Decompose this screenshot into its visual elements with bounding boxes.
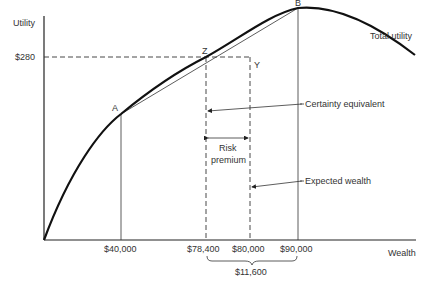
point-a-label: A <box>112 103 118 113</box>
x-axis-label: Wealth <box>388 248 416 258</box>
x-tick-80000: $80,000 <box>232 244 265 254</box>
chord-a-b <box>121 8 298 114</box>
risk-premium-label-2: premium <box>211 155 246 165</box>
certainty-equivalent-label: Certainty equivalent <box>305 99 385 109</box>
point-y-label: Y <box>254 60 260 70</box>
x-tick-40000: $40,000 <box>104 244 137 254</box>
curve-label: Total utility <box>370 31 413 41</box>
certainty-equivalent-arrow <box>208 104 302 111</box>
total-utility-curve <box>44 8 415 240</box>
expected-wealth-arrow <box>252 181 302 187</box>
risk-premium-label-1: Risk <box>219 143 237 153</box>
expected-wealth-label: Expected wealth <box>305 176 371 186</box>
x-tick-78400: $78,400 <box>187 244 220 254</box>
x-tick-90000: $90,000 <box>280 244 313 254</box>
point-b-label: B <box>295 0 301 8</box>
y-tick-280: $280 <box>15 52 35 62</box>
utility-diagram: Utility $280 Total utility A B Z Y Certa… <box>0 0 434 291</box>
brace-label: $11,600 <box>235 267 267 277</box>
brace-11600 <box>207 256 297 265</box>
y-axis-label: Utility <box>13 18 35 28</box>
point-z-label: Z <box>202 46 208 56</box>
